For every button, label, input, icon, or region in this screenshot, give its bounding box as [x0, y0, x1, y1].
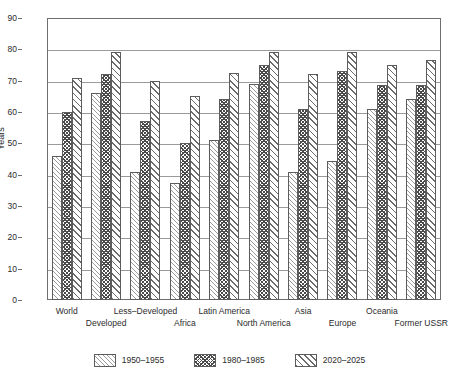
x-tick-label: Less–Developed: [114, 306, 177, 316]
x-tick-label: Former USSR: [395, 318, 448, 328]
x-tick-label: Latin America: [199, 306, 251, 316]
legend-swatch: [194, 354, 216, 367]
y-tick-mark: [18, 300, 22, 301]
y-tick-label: 80: [0, 45, 17, 54]
y-tick-label: 70: [0, 77, 17, 86]
bar: [337, 71, 347, 300]
bar: [209, 140, 219, 300]
bar: [62, 112, 72, 300]
x-tick-label: Europe: [329, 318, 356, 328]
legend-label: 1980–1985: [222, 355, 265, 365]
bar-group: [362, 18, 401, 300]
legend-item: 2020–2025: [295, 354, 366, 367]
legend-label: 2020–2025: [323, 355, 366, 365]
bar: [170, 183, 180, 301]
legend-label: 1950–1955: [122, 355, 165, 365]
y-tick-mark: [18, 237, 22, 238]
y-tick-mark: [18, 18, 22, 19]
x-tick-label: World: [56, 306, 78, 316]
bar-group: [165, 18, 204, 300]
bar: [140, 121, 150, 300]
bar-group: [323, 18, 362, 300]
legend-item: 1950–1955: [94, 354, 165, 367]
bar-group: [283, 18, 322, 300]
bar-group: [244, 18, 283, 300]
y-tick-mark: [18, 112, 22, 113]
bar: [269, 52, 279, 300]
bar: [259, 65, 269, 300]
y-tick-label: 60: [0, 108, 17, 117]
legend-item: 1980–1985: [194, 354, 265, 367]
bar: [347, 52, 357, 300]
bar: [229, 73, 239, 300]
y-tick-label: 20: [0, 233, 17, 242]
y-tick-label: 40: [0, 171, 17, 180]
bar: [387, 65, 397, 300]
bar-group: [86, 18, 125, 300]
bar: [288, 172, 298, 300]
y-tick-label: 50: [0, 139, 17, 148]
bar: [52, 156, 62, 300]
bar: [249, 84, 259, 300]
y-tick-mark: [18, 269, 22, 270]
y-tick-mark: [18, 49, 22, 50]
bar-group: [47, 18, 86, 300]
bar: [150, 81, 160, 300]
x-tick-label: North America: [237, 318, 291, 328]
y-tick-mark: [18, 206, 22, 207]
bar: [190, 96, 200, 300]
y-tick-label: 10: [0, 265, 17, 274]
bar: [406, 99, 416, 300]
bar: [308, 74, 318, 300]
y-tick-mark: [18, 143, 22, 144]
bar-group: [126, 18, 165, 300]
bar-chart: Years 0102030405060708090 WorldDeveloped…: [0, 0, 459, 378]
bar: [327, 161, 337, 300]
bar: [298, 109, 308, 300]
y-axis: Years 0102030405060708090: [0, 0, 47, 318]
x-tick-label: Asia: [295, 306, 312, 316]
legend: 1950–19551980–19852020–2025: [0, 349, 459, 371]
y-tick-mark: [18, 175, 22, 176]
bar: [219, 99, 229, 300]
bar: [367, 109, 377, 300]
x-tick-label: Developed: [86, 318, 127, 328]
x-axis-labels: WorldDevelopedLess–DevelopedAfricaLatin …: [0, 302, 459, 334]
y-tick-label: 30: [0, 202, 17, 211]
bar: [130, 172, 140, 300]
y-tick-mark: [18, 81, 22, 82]
bar: [426, 60, 436, 300]
y-tick-label: 90: [0, 14, 17, 23]
x-tick-label: Africa: [174, 318, 196, 328]
bar: [180, 143, 190, 300]
x-tick-label: Oceania: [366, 306, 398, 316]
bar: [91, 93, 101, 300]
bar: [416, 85, 426, 300]
bar: [111, 52, 121, 300]
legend-swatch: [295, 354, 317, 367]
bar-group: [205, 18, 244, 300]
bar: [72, 78, 82, 300]
bar: [377, 85, 387, 300]
bar: [101, 74, 111, 300]
bar-group: [402, 18, 441, 300]
bars-layer: [47, 18, 441, 300]
legend-swatch: [94, 354, 116, 367]
